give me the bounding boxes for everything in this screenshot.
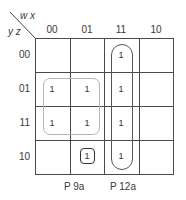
cell-11-00: 1 xyxy=(35,118,69,128)
row-label-00: 00 xyxy=(6,49,30,60)
col-label-11: 11 xyxy=(104,24,138,35)
cell-01-01: 1 xyxy=(70,84,104,94)
row-variable-label: y z xyxy=(8,26,21,37)
row-label-10: 10 xyxy=(6,151,30,162)
caption-p12a: P 12a xyxy=(110,181,136,192)
cell-11-01: 1 xyxy=(70,118,104,128)
grid-line xyxy=(35,140,174,141)
cell-11-11: 1 xyxy=(104,118,138,128)
cell-10-11: 1 xyxy=(104,151,138,161)
cell-10-01: 1 xyxy=(70,151,104,161)
col-label-10: 10 xyxy=(139,24,173,35)
grid-line xyxy=(35,38,174,39)
column-variable-label: w x xyxy=(20,10,35,21)
row-label-01: 01 xyxy=(6,83,30,94)
grid-line xyxy=(35,174,174,175)
col-label-01: 01 xyxy=(70,24,104,35)
grid-line xyxy=(35,72,174,73)
cell-01-00: 1 xyxy=(35,84,69,94)
caption-p9a: P 9a xyxy=(64,181,84,192)
cell-00-11: 1 xyxy=(104,50,138,60)
cell-01-11: 1 xyxy=(104,84,138,94)
col-label-00: 00 xyxy=(35,24,69,35)
row-label-11: 11 xyxy=(6,117,30,128)
